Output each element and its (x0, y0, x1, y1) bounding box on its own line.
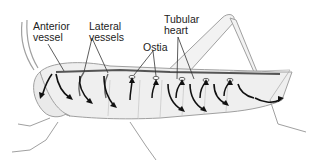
label-lateral-vessels-line2: vessels (89, 32, 124, 43)
label-tubular-heart-line2: heart (164, 25, 199, 36)
label-anterior-vessel-line2: vessel (33, 32, 70, 43)
label-anterior-vessel: Anterior vessel (33, 21, 70, 43)
label-ostia: Ostia (143, 42, 168, 53)
label-lateral-vessels: Lateral vessels (89, 21, 124, 43)
grasshopper-circulatory-diagram: Anterior vessel Lateral vessels Ostia Tu… (0, 0, 321, 165)
label-tubular-heart: Tubular heart (164, 14, 199, 36)
